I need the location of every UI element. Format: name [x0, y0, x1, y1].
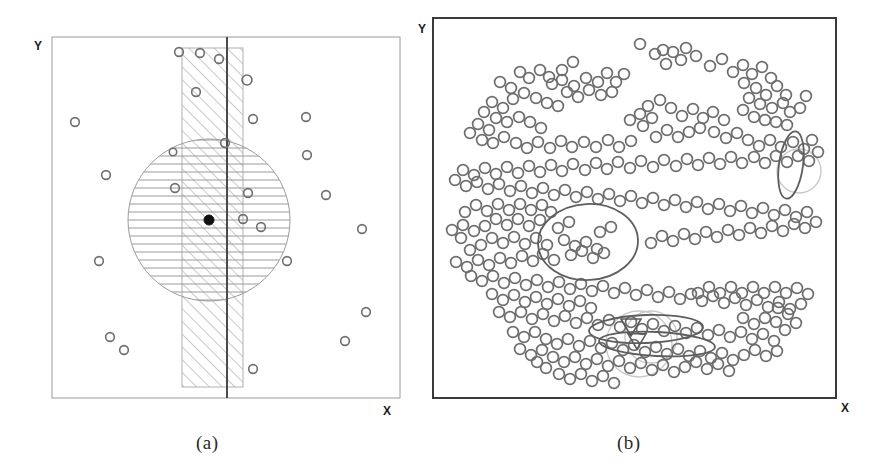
- panel-b-x-axis-label: X: [841, 401, 849, 415]
- panel-b-caption: (b): [617, 432, 641, 454]
- panel-a-caption: (a): [196, 432, 219, 454]
- panel-b-y-axis-label: Y: [418, 22, 426, 36]
- panel-a-x-axis-label: X: [383, 404, 391, 418]
- query-point: [204, 215, 214, 225]
- figure-root: YX YX: [0, 0, 879, 472]
- panel-a-y-axis-label: Y: [34, 39, 42, 53]
